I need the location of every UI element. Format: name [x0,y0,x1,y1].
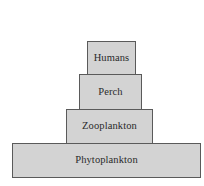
level-humans: Humans [87,41,136,75]
level-zooplankton: Zooplankton [66,109,153,144]
level-label-phytoplankton: Phytoplankton [75,155,138,166]
level-label-humans: Humans [94,53,130,64]
level-perch: Perch [79,74,142,110]
level-label-perch: Perch [98,87,122,98]
level-label-zooplankton: Zooplankton [82,121,137,132]
level-phytoplankton: Phytoplankton [12,143,201,178]
